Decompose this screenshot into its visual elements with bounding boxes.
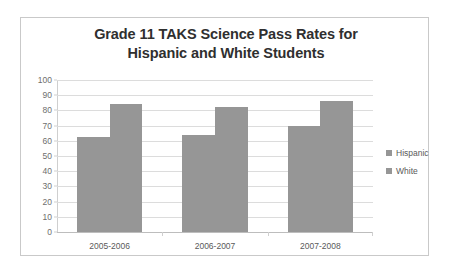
bar-white-2005-2006[interactable] [110,104,143,232]
gridline-100 [57,80,373,81]
y-tick-label-80: 80 [43,105,52,115]
chart-frame: Grade 11 TAKS Science Pass Rates for His… [20,17,429,256]
y-tick-label-90: 90 [43,90,52,100]
bar-hispanic-2007-2008[interactable] [288,126,321,232]
y-tick-mark-30 [54,186,57,187]
y-tick-label-100: 100 [38,75,52,85]
y-tick-mark-10 [54,216,57,217]
y-tick-label-20: 20 [43,197,52,207]
legend-item-white[interactable]: White [386,166,429,176]
y-tick-label-70: 70 [43,121,52,131]
bar-white-2007-2008[interactable] [320,101,353,232]
y-tick-mark-80 [54,110,57,111]
y-tick-mark-40 [54,171,57,172]
legend-swatch-icon-hispanic [386,150,392,156]
y-tick-label-40: 40 [43,166,52,176]
bar-hispanic-2006-2007[interactable] [182,135,215,232]
y-tick-mark-100 [54,80,57,81]
gridline-90 [57,95,373,96]
y-tick-mark-60 [54,140,57,141]
chart-legend: HispanicWhite [386,148,429,176]
y-tick-mark-0 [54,232,57,233]
chart-title: Grade 11 TAKS Science Pass Rates for His… [51,25,401,63]
legend-item-hispanic[interactable]: Hispanic [386,148,429,158]
legend-swatch-icon-white [386,168,392,174]
y-tick-mark-50 [54,156,57,157]
y-tick-mark-90 [54,95,57,96]
x-tick-end [372,232,373,236]
legend-label-white: White [396,166,418,176]
y-tick-label-60: 60 [43,136,52,146]
x-tick-2 [268,232,269,236]
x-axis-label-2005-2006: 2005-2006 [89,241,130,251]
legend-label-hispanic: Hispanic [396,148,429,158]
y-tick-label-50: 50 [43,151,52,161]
x-axis-label-2007-2008: 2007-2008 [300,241,341,251]
chart-title-line-1: Grade 11 TAKS Science Pass Rates for [51,25,401,44]
gridline-0 [57,232,373,233]
chart-title-line-2: Hispanic and White Students [51,44,401,63]
x-axis-label-2006-2007: 2006-2007 [195,241,236,251]
bar-hispanic-2005-2006[interactable] [77,137,110,232]
y-tick-mark-70 [54,125,57,126]
y-tick-label-30: 30 [43,181,52,191]
y-tick-mark-20 [54,201,57,202]
x-tick-1 [162,232,163,236]
y-tick-label-0: 0 [47,227,52,237]
plot-area: 1009080706050403020100 2005-20062006-200… [57,80,373,232]
bar-white-2006-2007[interactable] [215,107,248,232]
y-tick-label-10: 10 [43,212,52,222]
